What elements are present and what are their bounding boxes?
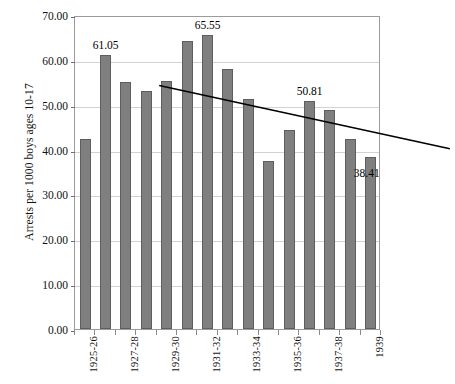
bar[interactable]	[141, 91, 152, 329]
bar-slot	[116, 17, 136, 329]
x-tick-label: 1935-36	[292, 336, 303, 372]
x-tick-mark	[156, 330, 157, 335]
plot-area: 61.0565.5550.8138.41	[74, 16, 380, 330]
bar[interactable]	[365, 157, 376, 329]
x-tick-mark	[135, 330, 136, 335]
x-tick-mark	[74, 330, 75, 335]
x-axis-tick-labels: 1925-261927-281929-301931-321933-341935-…	[74, 336, 380, 384]
bar-slot	[95, 17, 115, 329]
x-tick-mark	[115, 330, 116, 335]
x-tick-label: 1931-32	[211, 336, 222, 372]
bar[interactable]	[202, 35, 213, 329]
x-tick-mark	[217, 330, 218, 335]
bar[interactable]	[120, 82, 131, 329]
bar[interactable]	[304, 101, 315, 329]
bar-slot	[75, 17, 95, 329]
bar[interactable]	[284, 130, 295, 329]
bar[interactable]	[161, 81, 172, 329]
bar-slot	[197, 17, 217, 329]
bar-slot	[238, 17, 258, 329]
bar[interactable]	[263, 161, 274, 329]
x-tick-mark	[339, 330, 340, 335]
x-tick-mark	[237, 330, 238, 335]
y-tick-label: 60.00	[8, 55, 68, 67]
bar-slot	[279, 17, 299, 329]
x-tick-mark	[278, 330, 279, 335]
bar[interactable]	[182, 41, 193, 329]
y-tick-label: 30.00	[8, 189, 68, 201]
x-tick-mark	[176, 330, 177, 335]
y-tick-label: 40.00	[8, 145, 68, 157]
x-tick-mark	[196, 330, 197, 335]
bar[interactable]	[324, 110, 335, 329]
x-tick-mark	[360, 330, 361, 335]
bar-slot	[320, 17, 340, 329]
x-tick-mark	[258, 330, 259, 335]
y-tick-label: 10.00	[8, 279, 68, 291]
y-tick-label: 20.00	[8, 234, 68, 246]
x-tick-label: 1929-30	[170, 336, 181, 372]
bar-series	[75, 17, 379, 329]
data-label: 65.55	[195, 19, 221, 31]
x-tick-label: 1939	[374, 336, 385, 358]
bar[interactable]	[222, 69, 233, 329]
bar-slot	[157, 17, 177, 329]
x-tick-label: 1937-38	[333, 336, 344, 372]
y-tick-label: 70.00	[8, 10, 68, 22]
data-label: 50.81	[297, 85, 323, 97]
x-tick-mark	[380, 330, 381, 335]
x-tick-label: 1927-28	[129, 336, 140, 372]
y-axis-title: Arrests per 1000 boys ages 10-17	[23, 37, 35, 287]
bar-slot	[177, 17, 197, 329]
bar-slot	[299, 17, 319, 329]
y-tick-label: 0.00	[8, 324, 68, 336]
bar[interactable]	[100, 55, 111, 329]
bar[interactable]	[243, 99, 254, 329]
bar[interactable]	[80, 139, 91, 329]
x-tick-mark	[94, 330, 95, 335]
bar-slot	[218, 17, 238, 329]
x-tick-label: 1925-26	[88, 336, 99, 372]
data-label: 61.05	[93, 39, 119, 51]
data-label: 38.41	[354, 167, 380, 179]
bar-slot	[259, 17, 279, 329]
y-tick-label: 50.00	[8, 100, 68, 112]
x-tick-mark	[298, 330, 299, 335]
x-tick-mark	[319, 330, 320, 335]
bar-slot	[136, 17, 156, 329]
x-tick-label: 1933-34	[251, 336, 262, 372]
